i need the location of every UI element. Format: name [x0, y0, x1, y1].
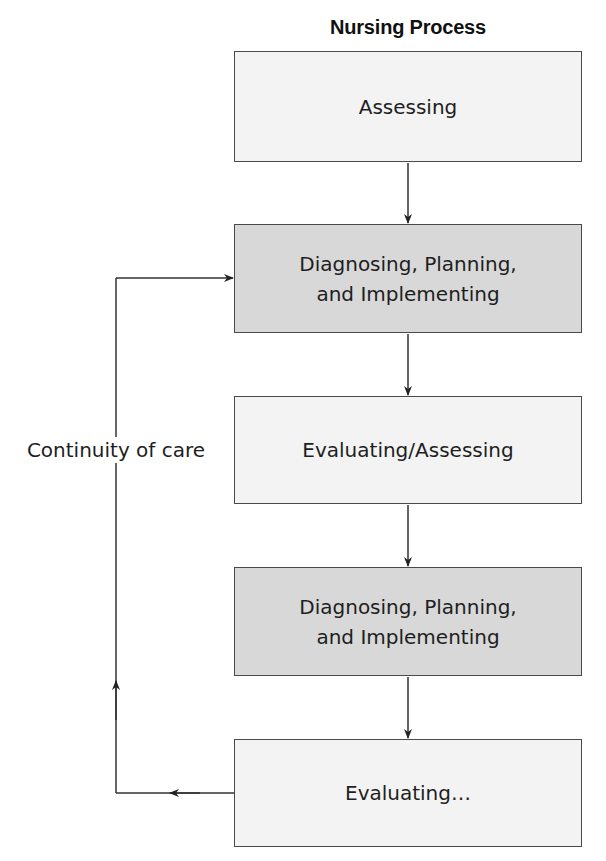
- step-assessing: Assessing: [234, 51, 582, 162]
- step-evaluating-assessing: Evaluating/Assessing: [234, 396, 582, 504]
- step-label-line-1: Diagnosing, Planning,: [299, 249, 516, 279]
- step-label-line-2: and Implementing: [316, 622, 499, 652]
- step-evaluating: Evaluating…: [234, 739, 582, 847]
- step-diagnosing-planning-implementing-1: Diagnosing, Planning, and Implementing: [234, 224, 582, 333]
- step-diagnosing-planning-implementing-2: Diagnosing, Planning, and Implementing: [234, 567, 582, 676]
- step-label: Evaluating/Assessing: [302, 435, 513, 465]
- continuity-of-care-label: Continuity of care: [20, 437, 212, 463]
- step-label-line-2: and Implementing: [316, 279, 499, 309]
- step-label: Assessing: [359, 92, 458, 122]
- step-label: Evaluating…: [345, 778, 471, 808]
- step-label-line-1: Diagnosing, Planning,: [299, 592, 516, 622]
